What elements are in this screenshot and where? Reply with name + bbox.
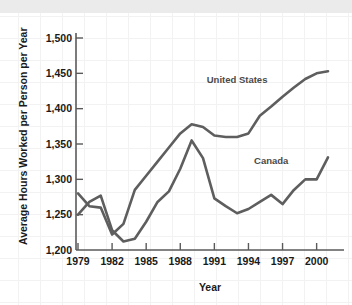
series-labels-group: United StatesCanada — [207, 74, 289, 166]
x-tick-label: 1985 — [135, 255, 159, 267]
x-tick-label: 1994 — [237, 255, 261, 267]
x-tick-label: 1997 — [271, 255, 295, 267]
y-axis-ticks: 1,2001,2501,3001,3501,4001,4501,500 — [46, 32, 83, 256]
series-label-united-states: United States — [207, 74, 268, 85]
y-tick-label: 1,350 — [46, 138, 72, 150]
y-tick-label: 1,250 — [46, 208, 72, 220]
x-axis-title: Year — [199, 281, 221, 293]
line-chart: Average Hours Worked per Person per Year… — [0, 0, 352, 305]
x-tick-label: 1991 — [203, 255, 227, 267]
y-tick-label: 1,500 — [46, 32, 72, 44]
y-tick-label: 1,300 — [46, 173, 72, 185]
x-axis-ticks: 19791982198519881991199419972000 — [66, 243, 328, 267]
y-axis-title: Average Hours Worked per Person per Year — [17, 28, 29, 245]
x-tick-label: 1979 — [66, 255, 90, 267]
data-series-group — [78, 71, 328, 241]
y-tick-label: 1,400 — [46, 102, 72, 114]
y-tick-label: 1,450 — [46, 67, 72, 79]
series-line-united-states — [78, 71, 328, 234]
chart-screenshot: Average Hours Worked per Person per Year… — [0, 0, 352, 305]
y-tick-label: 1,200 — [46, 244, 72, 256]
x-tick-label: 1982 — [100, 255, 124, 267]
series-line-canada — [78, 140, 328, 241]
x-tick-label: 1988 — [169, 255, 193, 267]
series-label-canada: Canada — [254, 155, 289, 166]
x-tick-label: 2000 — [305, 255, 329, 267]
